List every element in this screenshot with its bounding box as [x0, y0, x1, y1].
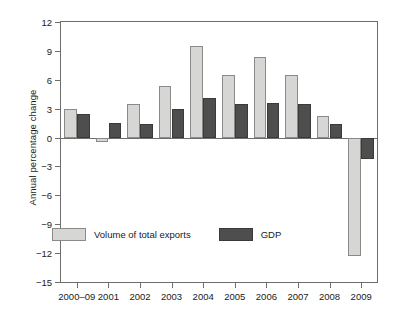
bar-gdp: [235, 104, 248, 138]
y-axis-tick-label: 9: [47, 45, 52, 56]
y-axis-tick-label: −3: [41, 161, 52, 172]
x-axis-tick-label: 2002: [129, 291, 150, 302]
x-axis-tick: [266, 282, 267, 288]
bar-gdp: [140, 124, 153, 137]
y-axis-tick-label: 0: [47, 132, 52, 143]
x-axis-tick-label: 2006: [256, 291, 277, 302]
x-axis-tick: [108, 282, 109, 288]
bar-exports: [254, 57, 267, 138]
bar-exports: [348, 138, 361, 256]
y-axis-tick-label: 3: [47, 103, 52, 114]
y-axis-title: Annual percentage change: [27, 38, 38, 258]
y-axis-tick: [55, 282, 61, 283]
bar-gdp: [298, 104, 311, 138]
x-axis-tick-label: 2008: [319, 291, 340, 302]
x-axis-tick-label: 2000–09: [58, 291, 95, 302]
bar-exports: [64, 109, 77, 138]
y-axis-tick-label: −6: [41, 190, 52, 201]
x-axis-tick-label: 2005: [224, 291, 245, 302]
bar-gdp: [203, 98, 216, 137]
x-axis-tick-label: 2004: [193, 291, 214, 302]
bar-exports: [127, 104, 140, 138]
bar-gdp: [109, 123, 122, 137]
bar-exports: [190, 46, 203, 137]
plot-area: 129630−3−6−9−12−152000–09200120022003200…: [60, 21, 378, 283]
y-axis-tick: [55, 166, 61, 167]
bar-gdp: [361, 138, 374, 159]
x-axis-tick: [235, 282, 236, 288]
bar-exports: [96, 138, 109, 143]
x-axis-tick: [203, 282, 204, 288]
bar-gdp: [172, 109, 185, 138]
y-axis-tick: [55, 195, 61, 196]
legend-swatch-exports: [52, 228, 86, 241]
bar-exports: [222, 75, 235, 138]
y-axis-tick-label: 12: [41, 17, 52, 28]
legend-entry-exports: Volume of total exports: [52, 228, 191, 241]
bar-gdp: [267, 103, 280, 138]
chart-legend: Volume of total exports GDP: [52, 228, 281, 241]
chart-figure: Annual percentage change 129630−3−6−9−12…: [0, 0, 399, 317]
zero-baseline: [61, 138, 377, 139]
bar-exports: [285, 75, 298, 138]
y-axis-tick-label: −12: [36, 248, 52, 259]
bar-gdp: [77, 114, 90, 137]
y-axis-tick: [55, 253, 61, 254]
y-axis-tick: [55, 138, 61, 139]
legend-entry-gdp: GDP: [219, 228, 282, 241]
x-axis-tick-label: 2009: [351, 291, 372, 302]
x-axis-tick-label: 2003: [161, 291, 182, 302]
y-axis-tick: [55, 80, 61, 81]
y-axis-tick-label: 6: [47, 74, 52, 85]
x-axis-tick: [298, 282, 299, 288]
legend-label-gdp: GDP: [261, 229, 282, 240]
legend-swatch-gdp: [219, 228, 253, 241]
y-axis-tick: [55, 22, 61, 23]
x-axis-tick-label: 2001: [98, 291, 119, 302]
x-axis-tick: [77, 282, 78, 288]
x-axis-tick: [172, 282, 173, 288]
y-axis-tick-label: −9: [41, 219, 52, 230]
x-axis-tick: [330, 282, 331, 288]
x-axis-tick: [140, 282, 141, 288]
x-axis-tick-label: 2007: [287, 291, 308, 302]
x-axis-tick: [361, 282, 362, 288]
y-axis-tick: [55, 109, 61, 110]
legend-label-exports: Volume of total exports: [94, 229, 191, 240]
y-axis-tick: [55, 224, 61, 225]
bar-exports: [317, 116, 330, 137]
bar-exports: [159, 86, 172, 138]
y-axis-tick-label: −15: [36, 277, 52, 288]
bar-gdp: [330, 124, 343, 137]
y-axis-tick: [55, 51, 61, 52]
